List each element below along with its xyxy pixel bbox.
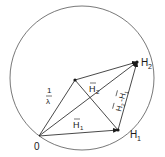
h2-point bbox=[135, 60, 138, 63]
difference-vector-label: H 2 - H 1 bbox=[112, 88, 129, 112]
h2-label: H 2 bbox=[141, 57, 152, 70]
radius-line-origin bbox=[39, 80, 75, 136]
vector-h2-label: H 2 bbox=[89, 83, 100, 95]
svg-text:1: 1 bbox=[137, 135, 141, 142]
svg-text:H: H bbox=[73, 120, 80, 130]
h1-point bbox=[116, 128, 119, 131]
svg-text:λ: λ bbox=[46, 97, 50, 106]
h1-label: H 1 bbox=[130, 129, 141, 142]
ewald-diagram: 0 H 1 H 2 H 1 H 2 1 λ H 2 - H 1 bbox=[0, 0, 165, 157]
origin-label: 0 bbox=[34, 141, 40, 152]
radius-arrow-h2 bbox=[75, 62, 137, 80]
vector-h1-label: H 1 bbox=[73, 119, 84, 131]
radius-line-h1 bbox=[75, 80, 118, 130]
vector-h1 bbox=[39, 130, 118, 136]
svg-text:2: 2 bbox=[148, 63, 152, 70]
svg-text:1: 1 bbox=[80, 125, 84, 131]
svg-text:H: H bbox=[89, 84, 96, 94]
radius-label: 1 λ bbox=[46, 86, 52, 106]
svg-text:1: 1 bbox=[47, 86, 52, 95]
center-point bbox=[73, 78, 76, 81]
